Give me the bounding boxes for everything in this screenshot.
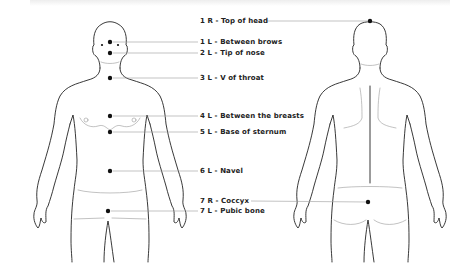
label-base-of-sternum: 5 L - Base of sternum (200, 128, 286, 137)
label-between-brows: 1 L - Between brows (200, 38, 282, 47)
label-top-of-head: 1 R - Top of head (200, 17, 268, 26)
front-body-figure (34, 22, 186, 262)
label-between-breasts: 4 L - Between the breasts (200, 112, 304, 121)
label-pubic-bone: 7 L - Pubic bone (200, 207, 265, 216)
back-body-figure (294, 22, 446, 262)
label-tip-of-nose: 2 L - Tip of nose (200, 49, 265, 58)
label-v-of-throat: 3 L - V of throat (200, 74, 264, 83)
label-coccyx: 7 R - Coccyx (200, 197, 249, 206)
front-detail-lines (74, 62, 146, 219)
label-navel: 6 L - Navel (200, 167, 243, 176)
